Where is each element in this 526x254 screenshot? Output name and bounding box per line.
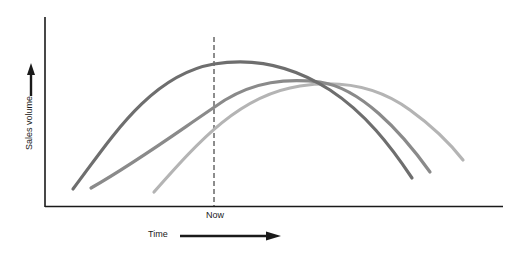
- right-arrow-icon: [266, 232, 281, 241]
- curve-product-1: [73, 62, 412, 189]
- now-label: Now: [200, 210, 230, 220]
- x-axis-label: Time: [148, 229, 168, 239]
- up-arrow-icon: [27, 63, 35, 75]
- product-life-cycle-diagram: [0, 0, 526, 254]
- y-axis-label: Sales volume: [24, 88, 34, 158]
- curve-product-3: [154, 84, 463, 192]
